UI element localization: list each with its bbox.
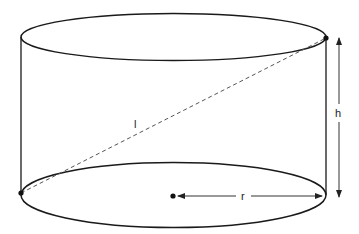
top-right-point bbox=[323, 35, 328, 40]
bottom-left-point bbox=[18, 190, 23, 195]
top-ellipse bbox=[21, 14, 326, 61]
height-label: h bbox=[335, 107, 341, 119]
center-point bbox=[170, 193, 175, 198]
radius-label: r bbox=[241, 190, 245, 202]
cylinder-diagram: h l r bbox=[0, 0, 359, 234]
slant-label: l bbox=[134, 118, 136, 130]
